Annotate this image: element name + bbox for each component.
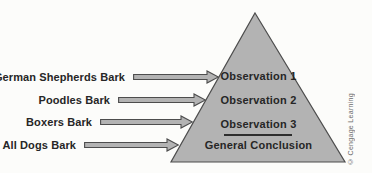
arrow-right-icon: [100, 115, 193, 129]
source-row-poodles: Poodles Bark: [38, 92, 206, 108]
arrow-right-icon: [118, 93, 206, 107]
source-row-german-shepherds: German Shepherds Bark: [0, 69, 219, 85]
pyramid-level-observation-3: Observation 3: [172, 118, 345, 130]
conclusion-divider-line: [224, 134, 292, 136]
source-row-all-dogs: All Dogs Bark: [3, 137, 179, 153]
source-label: German Shepherds Bark: [0, 71, 125, 83]
source-row-boxers: Boxers Bark: [26, 114, 193, 130]
copyright-credit: © Cengage Learning: [347, 94, 354, 164]
inductive-reasoning-diagram: Observation 1 Observation 2 Observation …: [0, 0, 372, 173]
arrow-right-icon: [84, 138, 179, 152]
general-conclusion-label: General Conclusion: [172, 139, 345, 151]
source-label: All Dogs Bark: [3, 139, 76, 151]
arrow-right-icon: [133, 70, 219, 84]
source-label: Boxers Bark: [26, 116, 92, 128]
source-label: Poodles Bark: [38, 94, 110, 106]
